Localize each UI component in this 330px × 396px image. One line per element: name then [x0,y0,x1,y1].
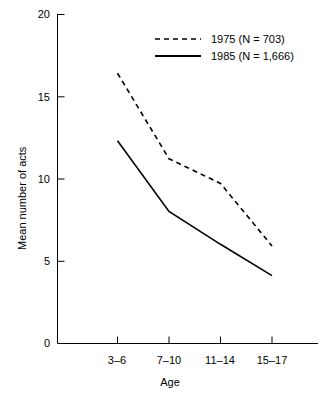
x-tick-label-7-10: 7–10 [145,355,193,366]
series-line-1975 [118,73,273,246]
y-tick-label-5: 5 [24,256,50,267]
series-line-1985 [118,141,273,276]
y-tick-label-20: 20 [24,9,50,20]
y-axis-ticks [58,15,65,344]
legend-label-1975: 1975 (N = 703) [211,33,285,45]
legend: 1975 (N = 703) 1985 (N = 1,666) [155,30,294,64]
y-tick-label-15: 15 [24,92,50,103]
line-chart: 0 5 10 15 20 3–6 7–10 11–14 15–17 Age Me… [0,0,330,396]
x-axis-ticks [118,337,273,344]
legend-swatch-dashed-icon [155,33,203,45]
legend-label-1985: 1985 (N = 1,666) [211,50,294,62]
x-tick-label-11-14: 11–14 [196,355,244,366]
x-axis-title: Age [160,376,180,388]
legend-swatch-solid-icon [155,50,203,62]
x-tick-label-15-17: 15–17 [248,355,296,366]
y-tick-label-0: 0 [24,338,50,349]
legend-item-1975: 1975 (N = 703) [155,30,294,47]
legend-item-1985: 1985 (N = 1,666) [155,47,294,64]
x-tick-label-3-6: 3–6 [93,355,141,366]
y-axis-title: Mean number of acts [16,147,28,250]
